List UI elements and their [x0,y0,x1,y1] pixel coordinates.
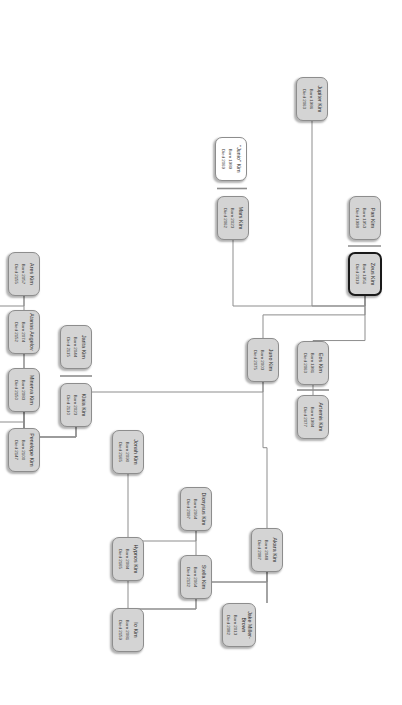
person-name: "Junio" Kim [235,145,242,173]
person-dates: Born 2003 Died 2075 [252,350,265,370]
person-node[interactable]: Pan KimBorn 1953 Died 1998 [349,196,381,240]
person-name: Jake Miller- Brown [240,611,253,639]
person-name: Jonah Kim [132,439,139,464]
person-name: Minerva Kim [28,375,35,405]
person-name: Ares Kim [28,263,35,285]
person-node[interactable]: Mars KimBorn 2023 Died 2062 [217,196,249,240]
person-node[interactable]: Eos KimBorn 1981 Died 2063 [297,341,329,385]
person-dates: Born 1984 Died 2077 [302,407,315,427]
person-node[interactable]: Atanas AngelovBorn 2074 Died 2152 [8,310,40,354]
person-node[interactable]: Akara KimBorn 2048 Died 2087 [251,528,283,572]
connector [76,382,263,392]
person-dates: Born 2057 Died 2155 [13,264,26,284]
person-name: Hypnos Kim [132,545,139,574]
person-dates: Born 1951 Died 2019 [354,264,367,284]
person-name: Io Kim [132,622,139,637]
family-tree-canvas: Zeus KimBorn 1951 Died 2019Pan KimBorn 1… [0,0,402,705]
person-name: Atanas Angelov [28,313,35,350]
person-name: Penelope Kim [28,433,35,467]
person-name: Pan Kim [369,208,376,228]
person-dates: Born 2083 Died 2150 [13,380,26,400]
person-name: Juno Kim [267,349,274,371]
person-node[interactable]: Dionysus KimBorn 2064 Died 2097 [180,487,212,531]
person-dates: Born 2064 Died 2097 [185,499,198,519]
person-node[interactable]: Jonah KimBorn 2090 Died 2165 [112,430,144,474]
person-name: Dionysus Kim [200,493,207,526]
person-name: Stella Kim [200,565,207,589]
person-name: Eos Kim [317,353,324,373]
person-dates: Born 1986 Died 2063 [301,89,314,109]
person-dates: Born 1989 Died 2069 [220,149,233,169]
person-node[interactable]: Jake Miller- BrownBorn 2013 Died 2082 [222,603,256,647]
person-dates: Born 2044 Died 2115 [65,337,78,357]
person-dates: Born 2081 Died 2159 [117,620,130,640]
person-dates: Born 1953 Died 1998 [354,208,367,228]
person-node[interactable]: Io KimBorn 2081 Died 2159 [112,608,144,652]
person-dates: Born 2064 Died 2132 [185,567,198,587]
person-node[interactable]: Penelope KimBorn 2100 Died 2147 [8,428,40,472]
person-node[interactable]: Zeus KimBorn 1951 Died 2019 [348,252,382,296]
person-node[interactable]: Stella KimBorn 2064 Died 2132 [180,555,212,599]
person-node[interactable]: Minerva KimBorn 2083 Died 2150 [8,368,40,412]
person-dates: Born 2100 Died 2147 [13,440,26,460]
family-tree-viewport: Zeus KimBorn 1951 Died 2019Pan KimBorn 1… [0,0,402,705]
person-node[interactable]: Jupiter KimBorn 1986 Died 2063 [296,77,328,121]
person-node[interactable]: Hypnos KimBorn 2084 Died 2165 [112,537,144,581]
person-node[interactable]: "Junio" KimBorn 1989 Died 2069 [215,137,247,181]
person-node[interactable]: Artemis KimBorn 1984 Died 2077 [297,395,329,439]
person-name: Jarita Kim [80,335,87,359]
person-node[interactable]: Jarita KimBorn 2044 Died 2115 [60,325,92,369]
person-name: Artemis Kim [317,402,324,431]
person-node[interactable]: Juno KimBorn 2003 Died 2075 [247,338,279,382]
person-dates: Born 2023 Died 2062 [222,208,235,228]
person-dates: Born 2074 Died 2152 [13,322,26,342]
connector [263,382,267,528]
person-name: Zeus Kim [369,263,376,286]
person-dates: Born 2084 Died 2165 [117,549,130,569]
person-node[interactable]: Klaia KimBorn 2023 Died 2110 [60,383,92,427]
person-dates: Born 1981 Died 2063 [302,353,315,373]
person-name: Jupiter Kim [316,85,323,112]
person-name: Mars Kim [237,207,244,230]
connector [263,296,365,338]
person-dates: Born 2048 Died 2087 [256,540,269,560]
person-name: Akara Kim [271,538,278,563]
person-dates: Born 2090 Died 2165 [117,442,130,462]
person-dates: Born 2013 Died 2082 [225,615,238,635]
connector [233,196,365,306]
person-dates: Born 2023 Died 2110 [65,395,78,415]
person-name: Klaia Kim [80,394,87,417]
person-node[interactable]: Ares KimBorn 2057 Died 2155 [8,252,40,296]
